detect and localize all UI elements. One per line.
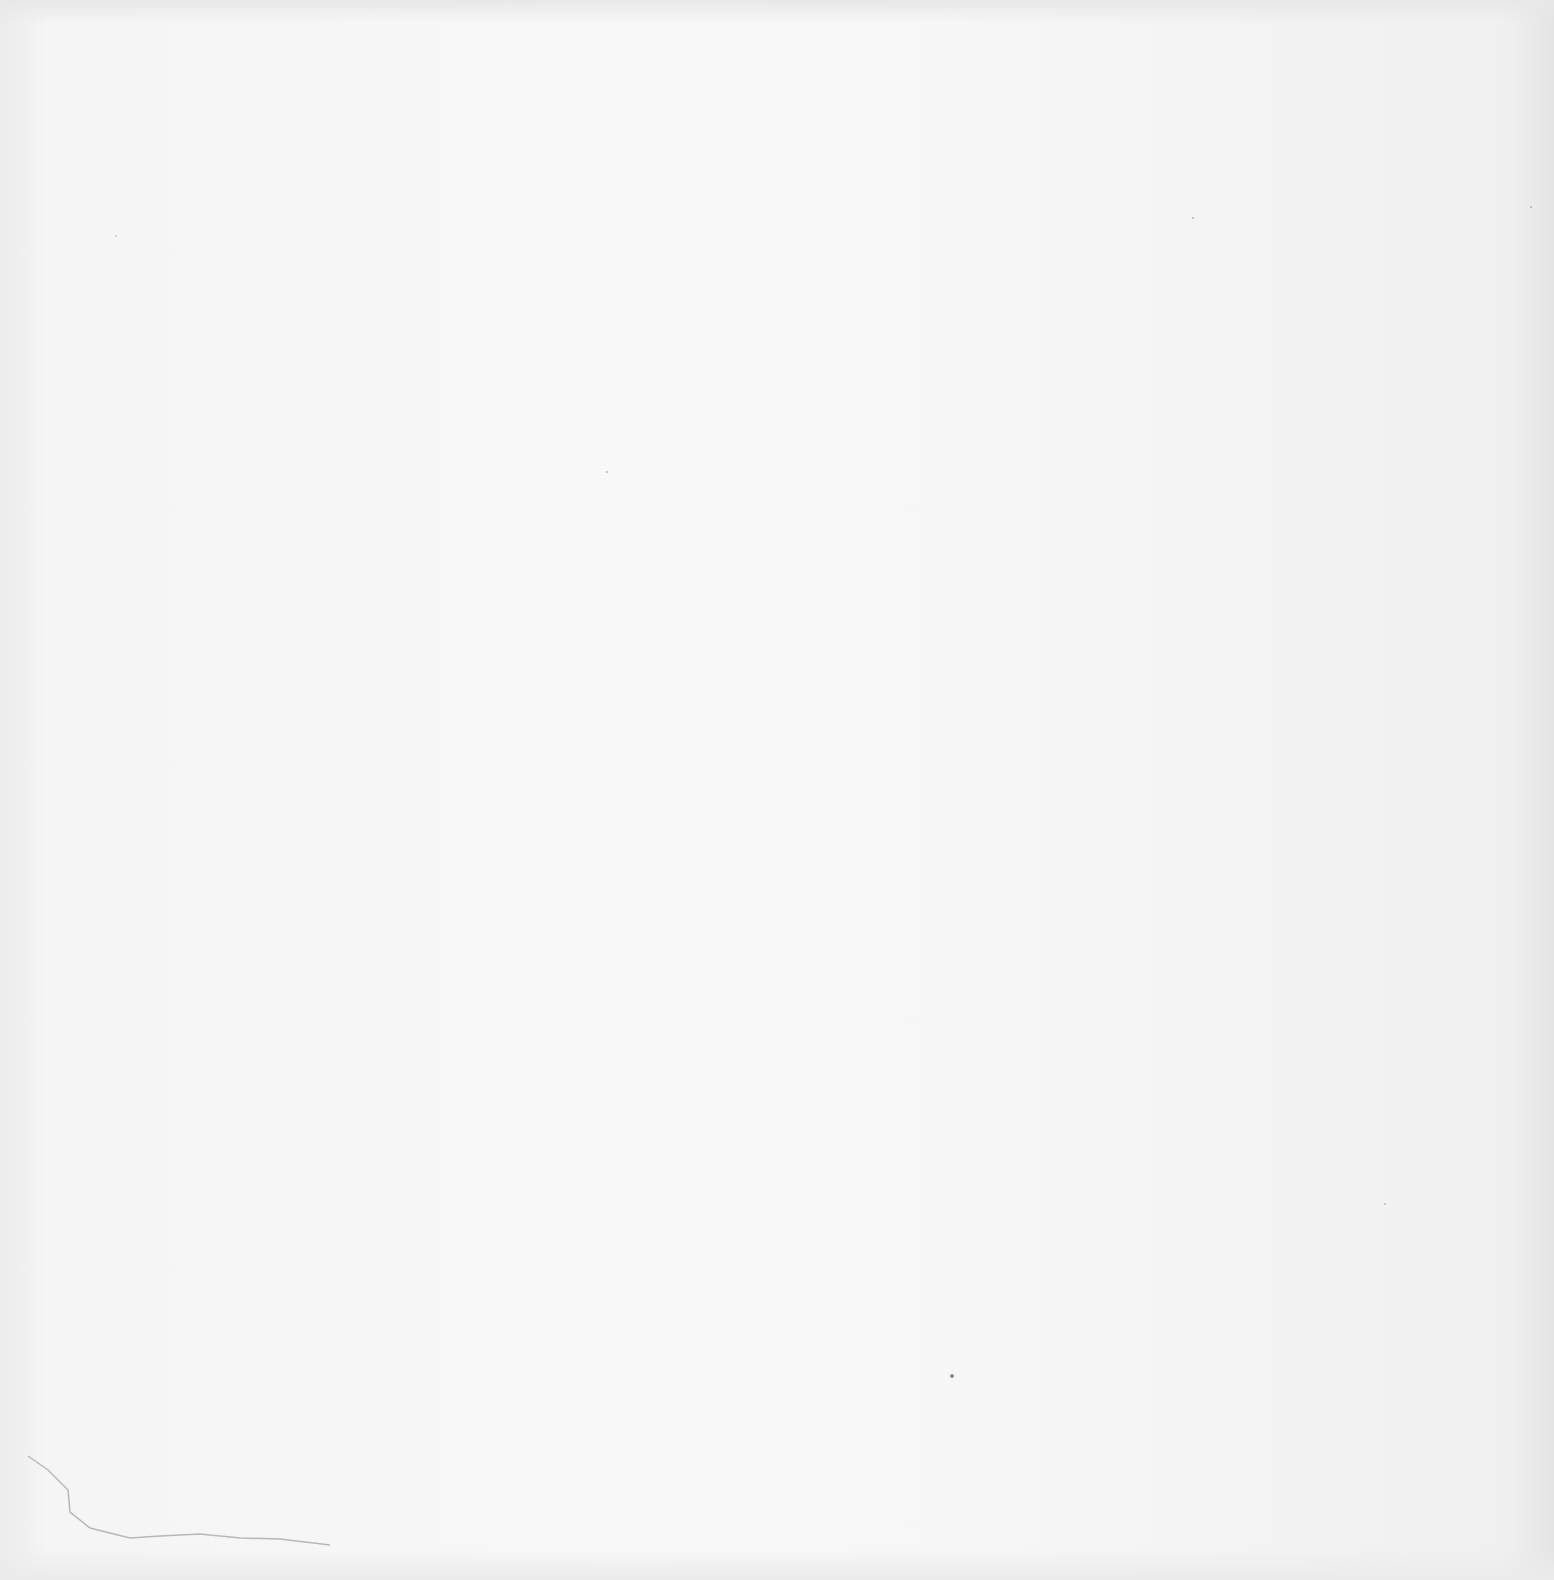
- paper-speck: [1192, 217, 1194, 219]
- paper-speck: [950, 1374, 954, 1378]
- paper-speck: [606, 471, 608, 473]
- blank-scanned-page: [0, 0, 1554, 1580]
- paper-speck: [1530, 206, 1532, 208]
- paper-crease: [0, 1400, 400, 1580]
- paper-speck: [1384, 1203, 1386, 1205]
- paper-speck: [115, 235, 117, 237]
